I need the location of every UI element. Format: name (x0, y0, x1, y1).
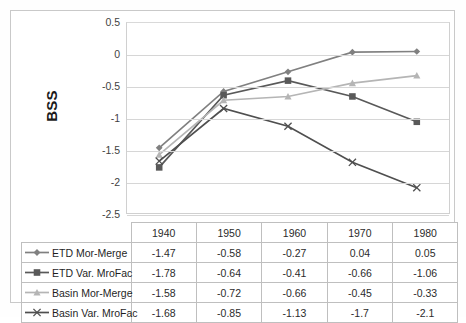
legend-entry-3: Basin Var. MroFac (22, 303, 132, 323)
legend-entry-1: ETD Var. MroFac (22, 263, 132, 283)
gridline (127, 119, 449, 120)
data-point-square-icon (349, 93, 356, 100)
data-point-cross-icon (413, 184, 420, 191)
table-header-row: 19401950196019701980 (22, 223, 458, 243)
table-cell: -0.72 (196, 283, 261, 303)
table-cell: -0.66 (262, 283, 327, 303)
legend-marker (24, 247, 50, 258)
legend-entry-0: ETD Mor-Merge (22, 243, 132, 263)
y-tick-label: -2.5 (78, 208, 120, 220)
legend-label: ETD Var. MroFac (52, 267, 132, 279)
table-cell: -1.06 (393, 263, 458, 283)
legend-label: Basin Mor-Merge (52, 287, 133, 299)
table-cell: -1.78 (131, 263, 196, 283)
column-header-1960: 1960 (262, 223, 327, 243)
y-tick-label: -1.5 (78, 144, 120, 156)
table-cell: -0.58 (196, 243, 261, 263)
column-header-1950: 1950 (196, 223, 261, 243)
table-header: 19401950196019701980 (22, 223, 458, 243)
table-row: Basin Var. MroFac-1.68-0.85-1.13-1.7-2.1 (22, 303, 458, 323)
y-tick-label: 0 (78, 48, 120, 60)
data-table: 19401950196019701980 ETD Mor-Merge-1.47-… (21, 222, 458, 323)
y-tick-label: -2 (78, 176, 120, 188)
data-point-diamond-icon (285, 68, 292, 75)
table-cell: -1.58 (131, 283, 196, 303)
table-cell: -0.33 (393, 283, 458, 303)
table-cell: -0.64 (196, 263, 261, 283)
column-header-1980: 1980 (393, 223, 458, 243)
table-cell: 0.05 (393, 243, 458, 263)
legend-marker (24, 267, 50, 278)
data-point-square-icon (34, 269, 41, 276)
series-0 (156, 48, 420, 151)
data-point-square-icon (285, 77, 292, 84)
data-point-diamond-icon (413, 48, 420, 55)
gridline (127, 55, 449, 56)
table-cell: -0.85 (196, 303, 261, 323)
data-point-square-icon (156, 164, 163, 171)
gridline (127, 87, 449, 88)
y-tick-label: -1 (78, 112, 120, 124)
data-point-diamond-icon (34, 249, 41, 256)
table-cell: -2.1 (393, 303, 458, 323)
data-point-cross-icon (156, 158, 163, 165)
legend-label: Basin Var. MroFac (52, 307, 138, 319)
legend-entry-2: Basin Mor-Merge (22, 283, 132, 303)
table-cell: -1.13 (262, 303, 327, 323)
table-cell: -1.7 (327, 303, 392, 323)
table-row: ETD Var. MroFac-1.78-0.64-0.41-0.66-1.06 (22, 263, 458, 283)
column-header-1970: 1970 (327, 223, 392, 243)
legend-marker (24, 287, 50, 298)
series-2 (156, 72, 421, 158)
legend-label: ETD Mor-Merge (52, 247, 127, 259)
table-cell: -0.45 (327, 283, 392, 303)
series-lines (127, 23, 449, 213)
plot-area (126, 22, 450, 214)
column-header-1940: 1940 (131, 223, 196, 243)
legend-marker (24, 307, 50, 318)
series-line (159, 109, 417, 188)
table-cell: -0.27 (262, 243, 327, 263)
y-tick-label: 0.5 (78, 16, 120, 28)
table-cell: 0.04 (327, 243, 392, 263)
data-point-cross-icon (349, 159, 356, 166)
legend-header-blank (22, 223, 132, 243)
table-cell: -1.47 (131, 243, 196, 263)
gridline (127, 183, 449, 184)
table-row: ETD Mor-Merge-1.47-0.58-0.270.040.05 (22, 243, 458, 263)
table-body: ETD Mor-Merge-1.47-0.58-0.270.040.05ETD … (22, 243, 458, 323)
y-axis-title: BSS (32, 76, 72, 136)
y-tick-label: -0.5 (78, 80, 120, 92)
table-cell: -1.68 (131, 303, 196, 323)
series-3 (156, 105, 421, 191)
table-row: Basin Mor-Merge-1.58-0.72-0.66-0.45-0.33 (22, 283, 458, 303)
series-line (159, 52, 417, 148)
table-cell: -0.66 (327, 263, 392, 283)
table-cell: -0.41 (262, 263, 327, 283)
gridline (127, 151, 449, 152)
gridline (127, 215, 449, 216)
